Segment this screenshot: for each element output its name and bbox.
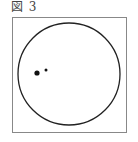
figure-frame — [13, 18, 127, 133]
circle-outline — [18, 23, 120, 125]
figure-canvas — [0, 0, 138, 142]
small-dot — [45, 69, 48, 72]
large-dot — [34, 70, 39, 75]
